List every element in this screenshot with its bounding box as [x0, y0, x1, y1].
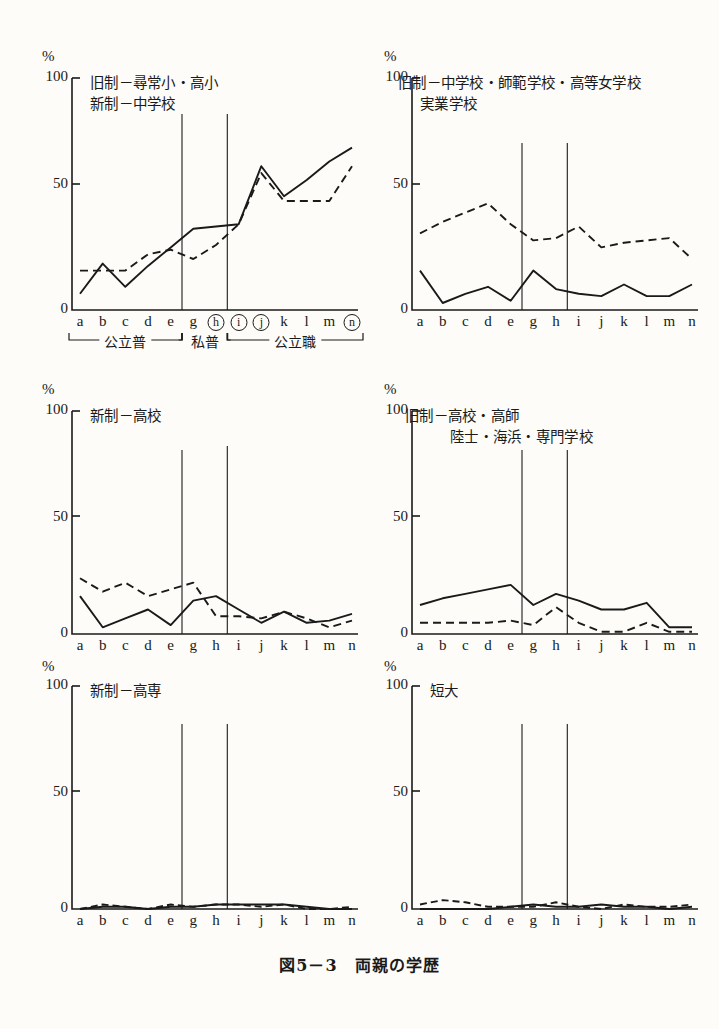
- bracket-label-0: 公立普: [104, 331, 146, 351]
- y-axis-unit: %: [384, 48, 397, 65]
- panel-4-series-father: [420, 585, 692, 627]
- panel-1-group-brackets: 公立普 私普 公立職: [0, 332, 360, 358]
- x-tick-label-a: a: [77, 313, 84, 330]
- x-tick-label-k: k: [280, 912, 288, 929]
- y-axis-unit: %: [384, 658, 397, 675]
- x-tick-label-i: i: [577, 912, 581, 929]
- x-tick-label-d: d: [144, 313, 152, 330]
- x-tick-label-a: a: [417, 912, 424, 929]
- panel-1-series-mother: [80, 166, 352, 270]
- x-tick-label-h: h: [552, 912, 560, 929]
- x-tick-label-l: l: [305, 313, 309, 330]
- x-tick-label-k: k: [280, 313, 288, 330]
- panel-3-axes: [72, 411, 358, 634]
- panel-1-title-line-2: 新制－中学校: [90, 95, 176, 114]
- panel-4-title-line-1: 旧制－高校・高師: [405, 407, 519, 426]
- x-tick-label-c: c: [122, 912, 129, 929]
- x-tick-label-g: g: [190, 313, 198, 330]
- x-tick-label-n: n: [344, 313, 361, 331]
- panel-1-series-father: [80, 148, 352, 294]
- y-tick-50: 50: [30, 508, 68, 525]
- panel-2-series-father: [420, 271, 692, 303]
- x-tick-label-a: a: [417, 313, 424, 330]
- y-tick-50: 50: [370, 508, 408, 525]
- panel-5-title-line-1: 新制－高専: [90, 682, 162, 701]
- panel-4-series-mother: [420, 607, 692, 632]
- panel-2-x-axis-labels: abcdeghijklmn: [360, 313, 719, 335]
- x-tick-label-e: e: [167, 912, 174, 929]
- circled-letter-h: h: [208, 314, 225, 331]
- panel-2-title-line-1: 旧制－中学校・師範学校・高等女学校: [398, 74, 641, 93]
- panel-6-x-axis-labels: abcdeghijklmn: [360, 912, 719, 934]
- panel-2-title-line-2: 実業学校: [420, 95, 477, 114]
- x-tick-label-l: l: [305, 912, 309, 929]
- x-tick-label-b: b: [439, 912, 447, 929]
- y-axis-unit: %: [384, 381, 397, 398]
- y-tick-50: 50: [370, 175, 408, 192]
- y-tick-100: 100: [370, 401, 408, 418]
- x-tick-label-l: l: [645, 313, 649, 330]
- y-axis-unit: %: [42, 658, 55, 675]
- x-tick-label-m: m: [323, 313, 335, 330]
- x-tick-label-a: a: [77, 912, 84, 929]
- panel-2: % 100 50 0 旧制－中学校・師範学校・高等女学校 実業学校 abcdeg…: [360, 0, 719, 360]
- circled-letter-j: j: [253, 314, 270, 331]
- panel-6: % 100 50 0 短大 abcdeghijklmn: [360, 648, 719, 938]
- x-tick-label-k: k: [620, 313, 628, 330]
- x-tick-label-d: d: [144, 912, 152, 929]
- y-tick-100: 100: [30, 401, 68, 418]
- x-tick-label-j: j: [599, 313, 603, 330]
- figure-caption: 図5－3 両親の学歴: [0, 952, 719, 976]
- x-tick-label-m: m: [323, 912, 335, 929]
- bracket-label-2: 公立職: [274, 331, 316, 351]
- panel-3-title-line-1: 新制－高校: [90, 407, 162, 426]
- x-tick-label-e: e: [507, 313, 514, 330]
- x-tick-label-e: e: [167, 313, 174, 330]
- x-tick-label-i: i: [230, 313, 247, 331]
- panel-4-title-line-2: 陸士・海浜・専門学校: [450, 428, 593, 447]
- y-tick-50: 50: [30, 783, 68, 800]
- panel-2-series-mother: [420, 203, 692, 259]
- x-tick-label-g: g: [190, 912, 198, 929]
- x-tick-label-c: c: [462, 313, 469, 330]
- y-tick-100: 100: [370, 676, 408, 693]
- x-tick-label-c: c: [462, 912, 469, 929]
- x-tick-label-n: n: [688, 912, 696, 929]
- x-tick-label-m: m: [663, 912, 675, 929]
- x-tick-label-l: l: [645, 912, 649, 929]
- x-tick-label-h: h: [208, 313, 225, 331]
- x-tick-label-b: b: [99, 912, 107, 929]
- panel-5: % 100 50 0 新制－高専 abcdeghijklmn: [0, 648, 360, 938]
- x-tick-label-h: h: [552, 313, 560, 330]
- y-tick-100: 100: [30, 68, 68, 85]
- x-tick-label-j: j: [259, 912, 263, 929]
- circled-letter-i: i: [230, 314, 247, 331]
- panel-6-axes: [412, 686, 698, 909]
- panel-5-axes: [72, 686, 358, 909]
- x-tick-label-h: h: [212, 912, 220, 929]
- y-tick-100: 100: [30, 676, 68, 693]
- panel-1-title-line-1: 旧制－尋常小・高小: [90, 74, 219, 93]
- y-axis-unit: %: [42, 381, 55, 398]
- circled-letter-n: n: [344, 314, 361, 331]
- y-tick-50: 50: [30, 175, 68, 192]
- x-tick-label-e: e: [507, 912, 514, 929]
- panel-6-plot: [360, 648, 719, 938]
- panel-2-plot: [360, 0, 719, 360]
- x-tick-label-g: g: [530, 912, 538, 929]
- panel-3: % 100 50 0 新制－高校 abcdeghijklmn: [0, 372, 360, 662]
- x-tick-label-b: b: [439, 313, 447, 330]
- panel-6-title-line-1: 短大: [430, 682, 459, 701]
- x-tick-label-d: d: [484, 313, 492, 330]
- x-tick-label-g: g: [530, 313, 538, 330]
- panel-6-dividers: [522, 724, 567, 909]
- y-axis-unit: %: [42, 48, 55, 65]
- panel-4: % 100 50 0 旧制－高校・高師 陸士・海浜・専門学校 abcdeghij…: [360, 372, 719, 662]
- x-tick-label-i: i: [577, 313, 581, 330]
- panel-5-dividers: [182, 724, 227, 909]
- x-tick-label-j: j: [253, 313, 270, 331]
- panel-5-x-axis-labels: abcdeghijklmn: [0, 912, 360, 934]
- x-tick-label-n: n: [348, 912, 356, 929]
- x-tick-label-j: j: [599, 912, 603, 929]
- x-tick-label-i: i: [237, 912, 241, 929]
